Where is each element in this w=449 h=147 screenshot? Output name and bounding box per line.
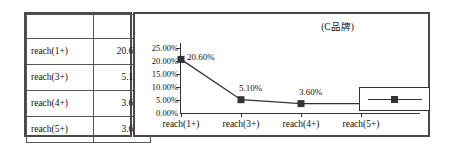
table-row: reach(4+) 3.60% bbox=[27, 91, 151, 117]
chart-panel: (C品牌) 25.00% 20.00% 15.00% 10.00% 5.00% … bbox=[133, 12, 430, 137]
series-marker bbox=[238, 96, 245, 103]
table-cell-label: reach(1+) bbox=[27, 39, 94, 65]
table-cell-label: reach(5+) bbox=[27, 117, 94, 143]
data-point-label: 20.60% bbox=[187, 52, 215, 62]
figure-container: reach(1+) 20.60% reach(3+) 5.10% reach(4… bbox=[0, 0, 449, 147]
series-marker bbox=[178, 56, 185, 63]
series-line bbox=[135, 14, 432, 139]
series-polyline bbox=[181, 59, 361, 103]
table-cell-label: reach(4+) bbox=[27, 91, 94, 117]
legend-marker-sample bbox=[391, 96, 398, 103]
table-cell-label: reach(3+) bbox=[27, 65, 94, 91]
table-row: reach(3+) 5.10% bbox=[27, 65, 151, 91]
table-header-row bbox=[27, 15, 151, 39]
data-point-label: 3.60% bbox=[299, 87, 322, 97]
data-table: reach(1+) 20.60% reach(3+) 5.10% reach(4… bbox=[24, 12, 132, 137]
series-marker bbox=[298, 100, 305, 107]
plot-area: 25.00% 20.00% 15.00% 10.00% 5.00% 0.00% … bbox=[135, 14, 432, 139]
data-point-label: 5.10% bbox=[239, 83, 262, 93]
table-header-label bbox=[27, 15, 94, 39]
chart-legend bbox=[359, 87, 430, 111]
table-row: reach(1+) 20.60% bbox=[27, 39, 151, 65]
table-row: reach(5+) 3.60% bbox=[27, 117, 151, 143]
